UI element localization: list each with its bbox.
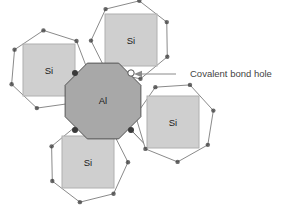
atom-vertex-dot bbox=[138, 77, 142, 81]
atom-vertex-dot bbox=[9, 82, 13, 86]
atom-vertex-dot bbox=[41, 28, 45, 32]
atom-silicon-right: Si bbox=[136, 85, 214, 162]
callout-layer: Covalent bond hole bbox=[134, 68, 272, 79]
atom-vertex-dot bbox=[111, 192, 115, 196]
bond-dot-lower-right bbox=[128, 127, 134, 133]
atom-vertex-dot bbox=[153, 85, 157, 89]
atom-vertex-dot bbox=[50, 179, 54, 183]
atom-vertex-dot bbox=[206, 143, 210, 147]
atom-vertex-dot bbox=[103, 7, 107, 11]
atom-vertex-dot bbox=[175, 160, 179, 164]
atom-vertex-dot bbox=[165, 20, 169, 24]
callout-label: Covalent bond hole bbox=[190, 68, 272, 79]
atom-vertex-dot bbox=[35, 106, 39, 110]
covalent-bond-diagram: SiSiSiSi Al Covalent bond hole bbox=[0, 0, 293, 205]
atom-vertex-dot bbox=[188, 83, 192, 87]
atom-label: Si bbox=[127, 35, 135, 46]
atom-vertex-dot bbox=[126, 160, 130, 164]
atom-vertex-dot bbox=[78, 200, 82, 204]
bond-dot-upper-left bbox=[72, 70, 78, 76]
atom-vertex-dot bbox=[12, 47, 16, 51]
atom-label: Si bbox=[45, 65, 53, 76]
atom-vertex-dot bbox=[211, 108, 215, 112]
diagram-canvas: SiSiSiSi Al Covalent bond hole bbox=[0, 0, 293, 205]
atom-vertex-dot bbox=[165, 55, 169, 59]
atom-vertex-dot bbox=[143, 147, 147, 151]
atom-label: Si bbox=[169, 117, 177, 128]
atom-label: Si bbox=[84, 157, 92, 168]
atom-vertex-dot bbox=[74, 39, 78, 43]
bond-dot-hole-upper-right bbox=[128, 70, 134, 76]
bond-dot-lower-left bbox=[72, 127, 78, 133]
center-atom-label: Al bbox=[99, 95, 107, 106]
atom-vertex-dot bbox=[89, 38, 93, 42]
atom-vertex-dot bbox=[49, 144, 53, 148]
